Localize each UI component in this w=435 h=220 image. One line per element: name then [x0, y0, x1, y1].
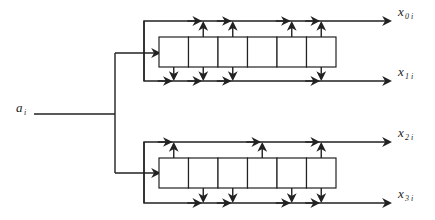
register-cell	[248, 158, 278, 188]
output-subscript-x1: 1 i	[405, 72, 413, 81]
input-subscript: i	[24, 108, 26, 117]
register-cell	[307, 158, 337, 188]
register-cell	[189, 158, 219, 188]
lower-shift-register	[115, 142, 390, 203]
register-cell	[248, 37, 278, 67]
input-label: a	[16, 100, 23, 115]
register-cell	[307, 37, 337, 67]
output-label-x2: x	[397, 125, 404, 140]
output-subscript-x2: 2 i	[405, 133, 413, 142]
register-cell	[189, 37, 219, 67]
convolutional-encoder-diagram: a i x 0 i x 1 i x 2 i x 3 i	[0, 0, 435, 220]
register-cell	[218, 37, 248, 67]
upper-shift-register	[115, 21, 390, 81]
register-cell	[159, 37, 189, 67]
output-subscript-x0: 0 i	[405, 12, 413, 21]
register-cell	[277, 158, 307, 188]
register-cell	[277, 37, 307, 67]
output-label-x1: x	[397, 64, 404, 79]
register-cell	[218, 158, 248, 188]
output-subscript-x3: 3 i	[404, 194, 413, 203]
register-cell	[159, 158, 189, 188]
output-label-x0: x	[397, 4, 404, 19]
output-label-x3: x	[397, 186, 404, 201]
